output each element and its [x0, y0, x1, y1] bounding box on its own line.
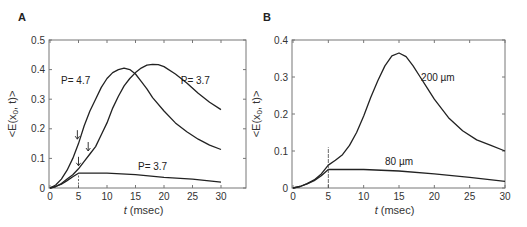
y-tick-label: 0.3	[274, 72, 288, 83]
y-tick-label: 0.3	[31, 94, 45, 105]
y-tick-label: 0.4	[274, 35, 288, 46]
panel-b: B05101520253000.10.20.30.4t (msec)<E(x0,…	[250, 11, 511, 216]
series-annotation: P= 4.7	[61, 75, 91, 86]
y-tick-label: 0.1	[274, 146, 288, 157]
series-annotation: 80 µm	[385, 156, 413, 167]
panel-label: A	[18, 11, 26, 23]
series-line	[293, 53, 505, 188]
series-annotation: P= 3.7	[181, 75, 211, 86]
y-tick-label: 0.2	[274, 109, 288, 120]
y-tick-label: 0.1	[31, 153, 45, 164]
x-tick-label: 15	[393, 191, 405, 202]
x-tick-label: 20	[429, 191, 441, 202]
y-tick-label: 0.5	[31, 35, 45, 46]
x-tick-label: 10	[101, 191, 113, 202]
x-tick-label: 25	[464, 191, 476, 202]
x-tick-label: 5	[326, 191, 332, 202]
y-tick-label: 0	[39, 183, 45, 194]
panel-label: B	[263, 11, 271, 23]
y-tick-label: 0.4	[31, 64, 45, 75]
y-axis-label: <E(x0, t)>	[250, 91, 264, 138]
y-tick-label: 0.2	[31, 123, 45, 134]
x-tick-label: 0	[290, 191, 296, 202]
x-tick-label: 25	[187, 191, 199, 202]
x-tick-label: 5	[76, 191, 82, 202]
x-tick-label: 15	[130, 191, 142, 202]
y-tick-label: 0	[282, 183, 288, 194]
x-tick-label: 10	[358, 191, 370, 202]
series-annotation: 200 µm	[421, 72, 455, 83]
x-tick-label: 30	[499, 191, 511, 202]
x-tick-label: 20	[158, 191, 170, 202]
figure: A05101520253000.10.20.30.40.5t (msec)<E(…	[0, 0, 527, 227]
x-axis-label: t (msec)	[124, 204, 164, 216]
x-axis-label: t (msec)	[375, 204, 415, 216]
series-annotation: P= 3.7	[138, 161, 168, 172]
panel-a: A05101520253000.10.20.30.40.5t (msec)<E(…	[6, 11, 246, 216]
x-tick-label: 0	[47, 191, 53, 202]
y-axis-label: <E(x0, t)>	[6, 91, 20, 138]
x-tick-label: 30	[215, 191, 227, 202]
